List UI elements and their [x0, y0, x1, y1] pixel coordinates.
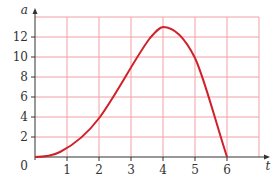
grid — [35, 17, 259, 157]
y-tick-8: 8 — [20, 70, 28, 84]
y-tick-2: 2 — [20, 130, 28, 144]
x-tick-labels: 0 1 2 3 4 5 6 — [20, 159, 230, 177]
origin-label: 0 — [20, 159, 28, 173]
x-tick-3: 3 — [127, 163, 135, 177]
x-tick-6: 6 — [223, 163, 231, 177]
chart: 2 4 6 8 10 12 0 1 2 3 4 5 6 a t — [0, 0, 275, 182]
x-axis-label: t — [266, 159, 271, 173]
y-tick-4: 4 — [20, 110, 28, 124]
y-tick-labels: 2 4 6 8 10 12 — [13, 30, 29, 144]
y-tick-6: 6 — [20, 90, 28, 104]
y-tick-12: 12 — [13, 30, 28, 44]
x-tick-5: 5 — [191, 163, 199, 177]
x-tick-2: 2 — [95, 163, 103, 177]
y-axis-label: a — [21, 3, 28, 17]
y-tick-10: 10 — [13, 50, 28, 64]
x-tick-1: 1 — [63, 163, 71, 177]
x-tick-4: 4 — [159, 163, 167, 177]
